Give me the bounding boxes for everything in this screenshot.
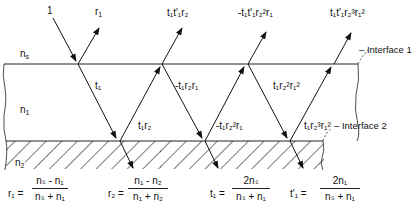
transmitted-t1-label: t₁	[95, 81, 101, 91]
eq-t1prime-lhs: t'₁ =	[290, 189, 307, 199]
internal-neg-t1r2sq-r1-label: -t₁r₂²r₁	[216, 121, 243, 131]
eq-r1-lhs: r₁ =	[8, 189, 23, 199]
eq-r2-fraction: n₁ - n₂n₁ + n₂	[128, 175, 168, 202]
internal-neg-t1r2r1-label: -t₁r₂r₁	[175, 81, 198, 91]
reflected-beam-1-label: t₁t'₁r₂	[167, 8, 188, 18]
interface-1-label: – Interface 1	[359, 45, 412, 55]
reflected-r1-label: r1	[95, 7, 102, 18]
eq-t1prime-fraction: 2n₁nₛ + n₁	[320, 175, 360, 202]
eq-t1-lhs: t₁ =	[210, 189, 225, 199]
medium-n1-label: n1	[20, 105, 29, 116]
interface-2-label: – Interface 2	[334, 121, 387, 131]
eq-t1-fraction: 2nₛnₛ + n₁	[232, 175, 270, 202]
internal-t1r2cu-r1sq-label: t₁r₂³r₁²	[304, 121, 331, 131]
internal-t1r2-label: t₁r₂	[138, 121, 151, 131]
incident-beam-label: 1	[47, 6, 53, 16]
reflected-beam-2-label: -t₁t'₁r₂²r₁	[238, 8, 273, 18]
medium-ns-label: ns	[20, 49, 29, 60]
substrate-hatch	[6, 141, 161, 169]
reflected-beam-3-label: t₁t'₁r₂³r₁²	[330, 8, 365, 18]
medium-n2-label: n2	[14, 158, 25, 169]
eq-r2-lhs: r₂ =	[108, 189, 124, 199]
internal-t1r2sq-r1sq-label: t₁r₂²r₁²	[273, 81, 300, 91]
eq-r1-fraction: nₛ - n₁nₛ + n₁	[32, 175, 68, 202]
